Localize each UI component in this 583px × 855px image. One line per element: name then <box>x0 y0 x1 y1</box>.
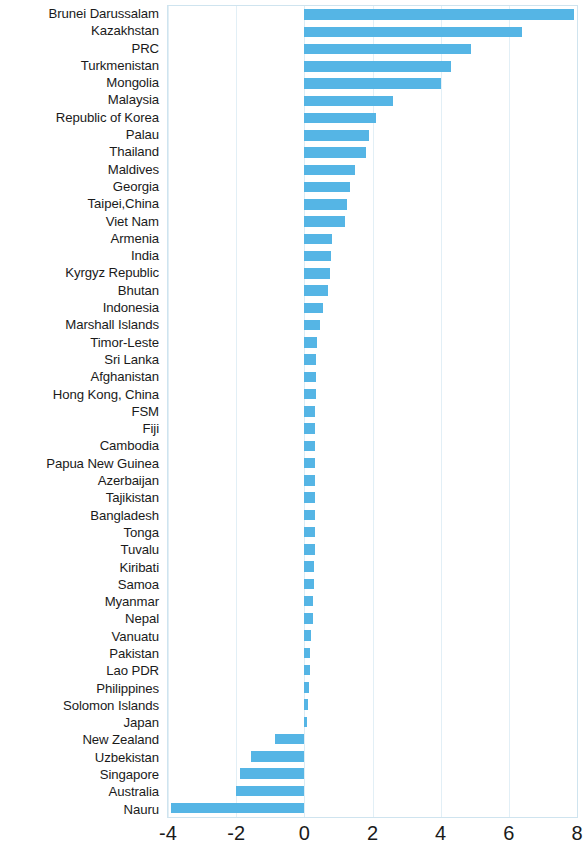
bar-row <box>168 161 577 178</box>
bar-row <box>168 644 577 661</box>
bar-row <box>168 627 577 644</box>
bar-row <box>168 386 577 403</box>
category-label: Tonga <box>0 524 163 541</box>
category-label: Kiribati <box>0 559 163 576</box>
bar-row <box>168 403 577 420</box>
bar <box>304 216 345 227</box>
x-tick-label: 6 <box>503 822 514 845</box>
bar <box>304 475 315 486</box>
category-label: Pakistan <box>0 645 163 662</box>
category-label: Kyrgyz Republic <box>0 264 163 281</box>
category-label: Samoa <box>0 576 163 593</box>
category-label: Turkmenistan <box>0 57 163 74</box>
category-label: Sri Lanka <box>0 351 163 368</box>
x-tick-label: 2 <box>367 822 378 845</box>
x-axis-tick-labels: -4-202468 <box>167 820 578 850</box>
bar-row <box>168 92 577 109</box>
bar-row <box>168 317 577 334</box>
bar <box>304 596 313 607</box>
category-label: Uzbekistan <box>0 749 163 766</box>
bar <box>304 423 315 434</box>
category-label: Singapore <box>0 766 163 783</box>
bar <box>240 768 305 779</box>
bar <box>304 113 376 124</box>
bar-row <box>168 351 577 368</box>
bar <box>304 441 315 452</box>
bar <box>304 147 365 158</box>
x-tick-label: -4 <box>159 822 177 845</box>
bar <box>304 165 355 176</box>
bar <box>304 78 440 89</box>
bar <box>304 682 308 693</box>
category-label: Indonesia <box>0 299 163 316</box>
category-label: Georgia <box>0 178 163 195</box>
category-label: Azerbaijan <box>0 472 163 489</box>
bar <box>304 268 330 279</box>
x-tick-label: -2 <box>227 822 245 845</box>
bar-row <box>168 662 577 679</box>
bar-row <box>168 144 577 161</box>
bar-row <box>168 593 577 610</box>
bar <box>304 544 314 555</box>
category-label: Marshall Islands <box>0 316 163 333</box>
category-label: Vanuatu <box>0 628 163 645</box>
bar-row <box>168 437 577 454</box>
bar-row <box>168 6 577 23</box>
bar <box>304 579 313 590</box>
x-tick-label: 4 <box>435 822 446 845</box>
bar-row <box>168 506 577 523</box>
bar-row <box>168 748 577 765</box>
bar-row <box>168 368 577 385</box>
bar-row <box>168 575 577 592</box>
category-label: Malaysia <box>0 91 163 108</box>
category-label: Afghanistan <box>0 368 163 385</box>
category-label: Mongolia <box>0 74 163 91</box>
bar-row <box>168 282 577 299</box>
bar-row <box>168 213 577 230</box>
bar <box>304 699 307 710</box>
bar <box>304 510 314 521</box>
bar <box>275 734 305 745</box>
bar <box>304 389 315 400</box>
bar-row <box>168 23 577 40</box>
bar-row <box>168 782 577 799</box>
bar-row <box>168 765 577 782</box>
bar-row <box>168 265 577 282</box>
x-tick-label: 0 <box>299 822 310 845</box>
plot-area <box>167 5 578 818</box>
category-label: New Zealand <box>0 731 163 748</box>
category-label: Fiji <box>0 420 163 437</box>
category-label: Thailand <box>0 143 163 160</box>
category-label: Viet Nam <box>0 213 163 230</box>
bar <box>304 9 573 20</box>
x-tick-label: 8 <box>571 822 582 845</box>
bar-row <box>168 127 577 144</box>
bars-layer <box>168 6 577 817</box>
category-label: Hong Kong, China <box>0 386 163 403</box>
bar-row <box>168 334 577 351</box>
bar <box>304 665 309 676</box>
bar <box>304 613 312 624</box>
bar-row <box>168 58 577 75</box>
bar-row <box>168 489 577 506</box>
bar-row <box>168 41 577 58</box>
category-label: Kazakhstan <box>0 22 163 39</box>
category-label: Bangladesh <box>0 507 163 524</box>
bar <box>304 44 471 55</box>
bar <box>304 561 314 572</box>
category-axis-labels: Brunei DarussalamKazakhstanPRCTurkmenist… <box>0 5 163 818</box>
bar <box>304 251 331 262</box>
category-label: Armenia <box>0 230 163 247</box>
bar <box>304 354 316 365</box>
bar-row <box>168 248 577 265</box>
bar <box>304 303 323 314</box>
bar <box>304 406 315 417</box>
bar <box>304 458 315 469</box>
bar <box>304 337 317 348</box>
bar-row <box>168 541 577 558</box>
bar-row <box>168 75 577 92</box>
bar <box>304 717 306 728</box>
bar <box>304 61 451 72</box>
category-label: Palau <box>0 126 163 143</box>
